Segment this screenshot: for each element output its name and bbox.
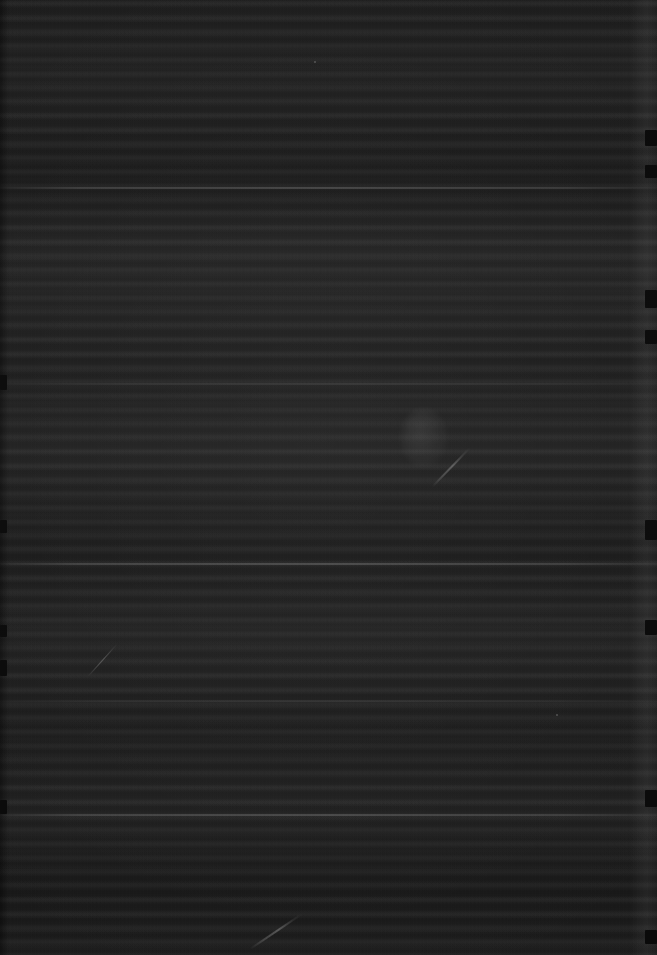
scan-image — [0, 0, 657, 955]
vignette-overlay — [0, 0, 657, 955]
